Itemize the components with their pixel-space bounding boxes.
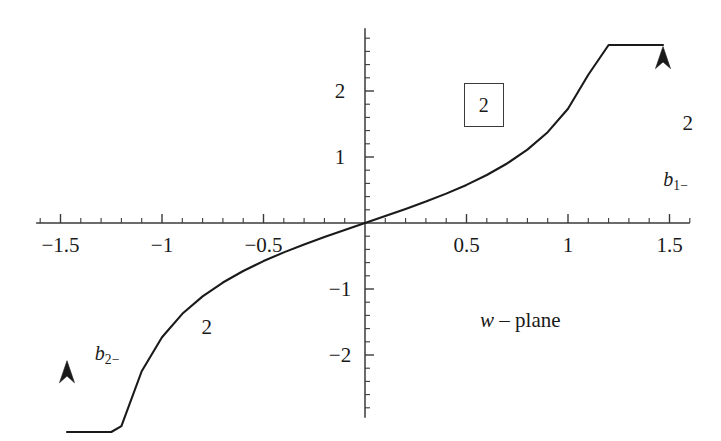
y-tick-label: −2 — [329, 345, 351, 366]
y-tick-label: 1 — [335, 147, 346, 168]
w-plane-variable: w — [480, 308, 494, 332]
branch-label-subscript: 2− — [105, 352, 120, 367]
w-plane-caption: w – plane — [480, 310, 561, 331]
figure-container: −1.5−1−0.50.511.5 −2−112 222 b1−b2− w – … — [0, 0, 721, 441]
region-right: 2 — [683, 112, 694, 133]
branch-label-b1: b1− — [663, 169, 688, 192]
region-label-text: 2 — [479, 95, 489, 115]
branch-label-b2: b2− — [95, 343, 120, 366]
x-tick-label: −1 — [151, 235, 173, 256]
arrowhead-b2 — [59, 361, 74, 383]
region-lower-left: 2 — [201, 317, 212, 338]
branch-label-base: b — [663, 168, 673, 190]
x-tick-label: −1.5 — [41, 235, 79, 256]
branch-label-base: b — [95, 342, 105, 364]
x-tick-label: 0.5 — [453, 235, 479, 256]
arrowhead-b1 — [656, 47, 671, 69]
curve-branch-b1 — [365, 45, 663, 223]
x-tick-label: −0.5 — [244, 235, 282, 256]
x-tick-label: 1.5 — [656, 235, 682, 256]
plot-canvas — [0, 0, 721, 441]
region-upper-boxed: 2 — [464, 83, 504, 127]
branch-label-subscript: 1− — [673, 178, 688, 193]
x-tick-label: 1 — [563, 235, 574, 256]
y-tick-label: −1 — [329, 279, 351, 300]
curve-branch-b2 — [67, 223, 365, 432]
y-tick-label: 2 — [335, 81, 346, 102]
w-plane-suffix: – plane — [499, 308, 560, 332]
